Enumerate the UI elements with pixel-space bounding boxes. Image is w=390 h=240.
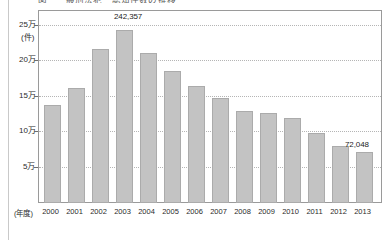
bar-2001	[68, 88, 85, 203]
bar-series	[38, 10, 382, 203]
page-gutter-rule	[8, 0, 9, 240]
bar-2000	[44, 105, 61, 203]
x-axis-unit-label: (年度)	[14, 207, 33, 218]
bar-2009	[260, 113, 277, 203]
value-label-2013: 72,048	[345, 140, 369, 149]
bar-2012	[332, 146, 349, 203]
y-axis-unit-label: (件)	[21, 31, 34, 42]
chart-page: 図 一般刑法犯 認知件数の推移 25万 (件) 20万 15万 10万 5万	[0, 0, 390, 240]
bar-2002	[92, 49, 109, 203]
bar-2004	[140, 53, 157, 203]
bar-2007	[212, 98, 229, 203]
bar-2010	[284, 118, 301, 203]
figure-caption: 図 一般刑法犯 認知件数の推移	[38, 0, 288, 3]
bar-2013	[356, 152, 373, 203]
bar-2008	[236, 111, 253, 203]
bar-2005	[164, 71, 181, 203]
bar-2003	[116, 30, 133, 203]
x-tick-label-2013: 2013	[348, 207, 377, 216]
x-axis: (年度) 2000 2001 2002 2003 2004 2005 2006 …	[0, 207, 390, 223]
bar-2006	[188, 86, 205, 203]
bar-2011	[308, 133, 325, 203]
value-label-2003: 242,357	[114, 12, 142, 21]
